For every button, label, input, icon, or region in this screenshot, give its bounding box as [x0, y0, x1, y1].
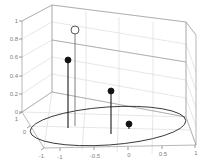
- z-tick-label: 0.8: [10, 36, 19, 42]
- grid-lines: [22, 5, 196, 154]
- y-tick-label-bottom: -1: [39, 153, 45, 159]
- stem-marker-filled: [126, 121, 132, 127]
- x-tick-label: -0.5: [90, 153, 101, 159]
- stem-marker-open: [71, 26, 79, 34]
- z-tick-label: 0: [15, 109, 19, 115]
- y-axis-tick-labels: 1 0 -1: [15, 116, 45, 159]
- x-tick-label: 0.5: [159, 151, 168, 157]
- plot-3d-stem: 1 0.8 0.6 0.4 0.2 0 1 0 -1 -1 -0: [0, 0, 211, 168]
- stem-marker-filled: [65, 57, 71, 63]
- z-tick-label: 1: [15, 18, 19, 24]
- unit-circle-annotation: [29, 102, 187, 151]
- z-tick-label: 0.6: [10, 54, 19, 60]
- figure-canvas: 1 0.8 0.6 0.4 0.2 0 1 0 -1 -1 -0: [0, 0, 211, 168]
- z-tick-label: 0.2: [10, 91, 19, 97]
- y-tick-label-mid: 0: [23, 129, 27, 135]
- stem-marker-filled: [108, 88, 114, 94]
- z-tick-label: 0.4: [10, 73, 19, 79]
- stem-series: [65, 26, 132, 134]
- x-axis-tick-labels: -1 -0.5 0 0.5 1: [57, 150, 198, 160]
- y-tick-label-top: 1: [15, 116, 19, 122]
- x-tick-label: 0: [127, 152, 131, 158]
- z-axis-ticks: [19, 21, 22, 112]
- x-tick-label: 1: [194, 150, 198, 156]
- x-tick-label: -1: [57, 154, 63, 160]
- z-axis-tick-labels: 1 0.8 0.6 0.4 0.2 0: [10, 18, 19, 115]
